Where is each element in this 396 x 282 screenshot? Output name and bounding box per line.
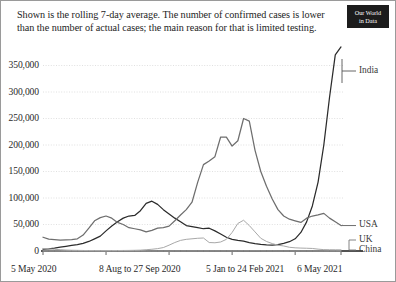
legend-leader-lines [341, 59, 356, 250]
line-chart-svg [1, 1, 396, 282]
series-line-usa [43, 119, 341, 241]
y-axis-tick-label: 350,000 [0, 59, 39, 70]
series-label-usa: USA [359, 219, 378, 229]
y-axis-tick-label: 200,000 [0, 139, 39, 150]
y-axis-tick-label: 50,000 [0, 218, 39, 229]
series-label-uk: UK [359, 234, 373, 244]
x-axis-tick-label: 5 May 2020 [11, 263, 56, 274]
series-lines [43, 47, 341, 251]
y-axis-tick-label: 150,000 [0, 165, 39, 176]
x-axis-tick-label: 5 Jan to 24 Feb 2021 [206, 263, 284, 274]
y-axis-tick-label: 0 [0, 245, 39, 256]
x-axis-tick-label: 6 May 2021 [297, 263, 342, 274]
chart-page: Shown is the rolling 7-day average. The … [0, 0, 396, 282]
y-axis-tick-label: 300,000 [0, 86, 39, 97]
y-axis-tick-label: 250,000 [0, 112, 39, 123]
series-line-india [43, 47, 341, 249]
series-label-india: India [359, 65, 378, 75]
series-label-china: China [359, 244, 381, 254]
x-axis-tick-label: 8 Aug to 27 Sep 2020 [99, 263, 180, 274]
y-axis-tick-label: 100,000 [0, 192, 39, 203]
